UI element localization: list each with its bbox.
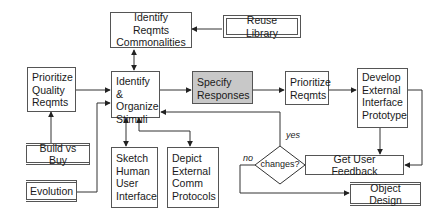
object-design-node: Object Design	[350, 182, 421, 206]
get-user-feedback-node: Get User Feedback	[305, 155, 404, 175]
reuse-library-node: Reuse Library	[226, 18, 298, 35]
yes-edge-label: yes	[286, 130, 300, 140]
specify-responses-node: Specify Responses	[192, 71, 253, 104]
no-edge-label: no	[243, 153, 253, 163]
prioritize-reqmts-node: Prioritize Reqmts	[285, 71, 329, 105]
identify-organize-stimuli-node: Identify & Organize Stimuli	[111, 71, 160, 118]
identify-reqmts-commonalities-node: Identify Reqmts Commonalities	[110, 12, 192, 48]
changes-decision-label: changes?	[255, 159, 305, 169]
prioritize-quality-reqmts-node: Prioritize Quality Reqmts	[27, 67, 76, 112]
depict-external-comm-protocols-node: Depict External Comm Protocols	[167, 147, 219, 208]
evolution-node: Evolution	[26, 180, 77, 202]
sketch-human-user-interface-node: Sketch Human User Interface	[111, 147, 158, 208]
develop-external-interface-prototype-node: Develop External Interface Prototype	[357, 68, 408, 128]
build-vs-buy-node: Build vs Buy	[26, 143, 90, 165]
